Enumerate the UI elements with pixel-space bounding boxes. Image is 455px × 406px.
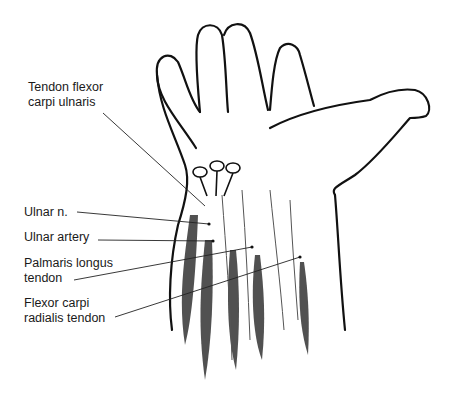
label-palmaris-longus-tendon: Palmaris longus tendon	[24, 256, 113, 286]
label-tendon-flexor-carpi-ulnaris: Tendon flexor carpi ulnaris	[28, 80, 103, 110]
label-flexor-carpi-radialis-tendon: Flexor carpi radialis tendon	[24, 296, 105, 326]
middle-finger-outline	[224, 24, 268, 110]
retractors	[193, 161, 240, 196]
forearm-radial-edge	[335, 195, 345, 330]
index-finger-outline	[270, 44, 314, 110]
thumb-outline	[270, 89, 429, 195]
label-ulnar-artery: Ulnar artery	[24, 230, 89, 245]
hand-illustration	[0, 0, 455, 406]
little-finger-outline	[157, 56, 200, 148]
label-ulnar-nerve: Ulnar n.	[24, 205, 68, 220]
ring-finger-outline	[196, 25, 228, 112]
